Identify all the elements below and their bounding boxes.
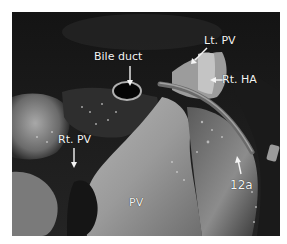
surgical-photo: Bile duct Lt. PV Rt. HA Rt. PV PV 12a bbox=[12, 12, 280, 236]
label-rt-pv: Rt. PV bbox=[58, 134, 91, 146]
label-rt-ha: Rt. HA bbox=[222, 74, 257, 86]
label-12a: 12a bbox=[230, 179, 253, 191]
label-lt-pv: Lt. PV bbox=[204, 35, 236, 47]
label-pv: PV bbox=[129, 197, 143, 209]
label-bile-duct: Bile duct bbox=[94, 51, 142, 63]
surgical-scene bbox=[12, 12, 280, 236]
